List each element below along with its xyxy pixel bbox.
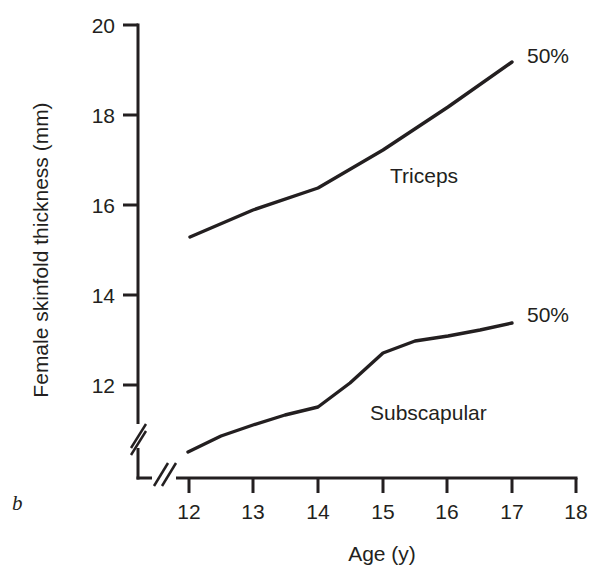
x-tick-label-18: 18: [564, 500, 587, 523]
x-tick-label-16: 16: [435, 500, 458, 523]
subscapular-curve: [188, 323, 512, 452]
y-tick-label-18: 18: [92, 104, 115, 127]
x-tick-label-17: 17: [500, 500, 523, 523]
x-axis-break-icon: [152, 463, 176, 486]
x-tick-label-12: 12: [177, 500, 200, 523]
y-tick-label-20: 20: [92, 14, 115, 37]
x-tick-label-14: 14: [306, 500, 330, 523]
y-axis-title: Female skinfold thickness (mm): [29, 102, 52, 397]
skinfold-thickness-line-chart: 20 18 16 14 12 Female skinfold thickness…: [0, 0, 604, 578]
triceps-curve: [190, 62, 512, 237]
panel-label: b: [12, 491, 23, 515]
y-tick-label-14: 14: [92, 284, 116, 307]
x-tick-label-13: 13: [241, 500, 264, 523]
x-tick-label-15: 15: [371, 500, 394, 523]
y-tick-label-12: 12: [92, 374, 115, 397]
x-axis: 12 13 14 15 16 17 18 Age (y): [138, 463, 588, 565]
y-axis: 20 18 16 14 12 Female skinfold thickness…: [29, 14, 146, 478]
y-tick-label-16: 16: [92, 194, 115, 217]
subscapular-percentile-label: 50%: [527, 303, 569, 326]
figure-panel-b: 20 18 16 14 12 Female skinfold thickness…: [0, 0, 604, 578]
subscapular-series-label: Subscapular: [370, 401, 487, 424]
triceps-series-label: Triceps: [390, 164, 458, 187]
triceps-percentile-label: 50%: [527, 44, 569, 67]
x-axis-title: Age (y): [348, 542, 416, 565]
